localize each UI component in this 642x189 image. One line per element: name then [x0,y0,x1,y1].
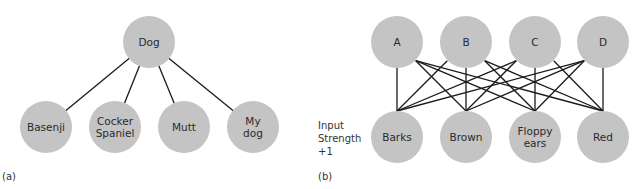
node-child-3: Mydog [227,101,279,153]
node-label: Barks [382,131,412,143]
node-hidden-c: C [509,16,561,68]
edge-dog-child-2 [158,65,174,104]
node-label: Brown [450,131,483,143]
node-label: Floppy [518,125,553,137]
node-label: A [393,36,401,48]
node-label: C [531,36,538,48]
node-label: Mutt [172,121,196,133]
node-child-2: Mutt [158,101,210,153]
input-strength-line-2: Strength [318,132,361,145]
node-input-0: Barks [371,111,423,163]
edge-C-3 [554,61,603,111]
edge-A-2 [416,61,535,111]
caption-b: (b) [318,170,332,183]
node-label: Spaniel [96,127,135,139]
node-hidden-d: D [577,16,629,68]
node-input-2: Floppyears [509,111,561,163]
node-label: Red [593,131,613,143]
node-label: Basenji [27,121,65,133]
node-label: Cocker [97,115,134,127]
node-input-1: Brown [440,111,492,163]
node-child-0: Basenji [20,101,72,153]
input-strength-line-3: +1 [318,145,361,158]
diagram-canvas: DogBasenjiCockerSpanielMuttMydogABCDBark… [0,0,642,189]
edge-dog-child-1 [124,65,140,104]
edge-B-3 [485,61,603,111]
node-input-3: Red [577,111,629,163]
input-strength-label: Input Strength +1 [318,119,361,158]
node-child-1: CockerSpaniel [89,101,141,153]
node-label: Dog [138,36,159,48]
node-hidden-a: A [371,16,423,68]
node-label: My [245,115,260,127]
edge-B-0 [397,61,447,111]
edge-D-0 [397,61,584,111]
input-strength-line-1: Input [318,119,361,132]
node-label: ears [524,137,547,149]
caption-a: (a) [2,170,16,183]
node-label: B [462,36,469,48]
edge-D-1 [466,61,584,111]
node-hidden-b: B [440,16,492,68]
node-label: dog [243,127,263,139]
edge-C-0 [397,61,516,111]
node-label: D [599,36,607,48]
node-dog: Dog [123,16,175,68]
